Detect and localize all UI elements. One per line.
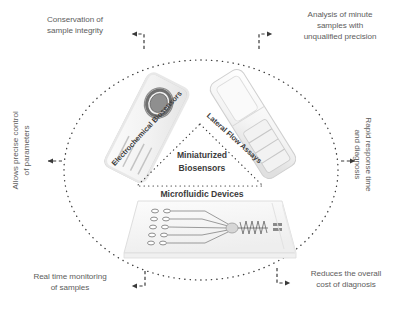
core-label-line: Biosensors <box>152 162 252 175</box>
diagram-canvas: Conservation of sample integrity Analysi… <box>0 0 400 310</box>
benefit-analysis-of-minute-samples: Analysis of minute samples with unqualif… <box>284 9 396 43</box>
benefit-line: of parameters <box>21 91 32 209</box>
benefit-rapid-response-time-and-diagnosis: Rapid response time and diagnosis <box>352 98 375 210</box>
benefit-reduces-the-overall-cost-of-diagnosis: Reduces the overall cost of diagnosis <box>294 268 398 290</box>
arrow-reduces-overall-cost <box>277 268 290 283</box>
benefit-line: Real time monitoring <box>12 271 128 282</box>
benefit-line: Rapid response time <box>363 98 374 210</box>
core-label-miniaturized-biosensors: Miniaturized Biosensors <box>152 149 252 174</box>
microfluidic-chip-illustration <box>124 201 296 258</box>
arrow-analysis-of-minute-samples <box>259 34 272 49</box>
benefit-line: Allows precise control <box>10 91 21 209</box>
core-label-line: Miniaturized <box>152 149 252 162</box>
benefit-line: samples with <box>284 20 396 31</box>
benefit-line: Analysis of minute <box>284 9 396 20</box>
label-microfluidic-devices: Microfluidic Devices <box>135 188 269 201</box>
benefit-line: of samples <box>12 282 128 293</box>
benefit-line: unqualified precision <box>284 31 396 42</box>
arrow-conservation-of-sample-integrity <box>132 34 144 49</box>
benefit-line: Reduces the overall <box>294 268 398 279</box>
benefit-line: and diagnosis <box>352 98 363 210</box>
benefit-allows-precise-control-of-parameters: Allows precise control of parameters <box>10 91 33 209</box>
benefit-line: Conservation of <box>22 14 128 25</box>
benefit-real-time-monitoring-of-samples: Real time monitoring of samples <box>12 271 128 293</box>
benefit-line: sample integrity <box>22 25 128 36</box>
benefit-conservation-of-sample-integrity: Conservation of sample integrity <box>22 14 128 36</box>
benefit-line: cost of diagnosis <box>294 279 398 290</box>
arrow-real-time-monitoring <box>132 271 145 286</box>
